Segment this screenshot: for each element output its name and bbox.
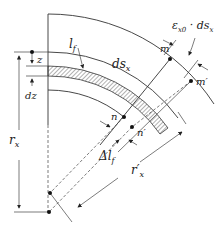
rx-prime-dimension-a [140, 132, 182, 162]
label-m: m [160, 43, 169, 54]
curved-beam-diagram: lf dsx εx0 · dsx m m′ n n′ z dz rx r′x Δ… [0, 0, 220, 229]
label-lf: lf [69, 37, 78, 53]
dashed-radius-to-lower-center [49, 127, 132, 212]
rx-prime-dimension-b [78, 178, 118, 207]
point-m [168, 57, 172, 61]
label-rx: rx [9, 133, 20, 149]
n-arrow [100, 121, 110, 127]
label-n-prime: n′ [137, 127, 146, 138]
mp-offset-arrow [198, 64, 208, 70]
lower-center [47, 210, 51, 214]
label-n: n [111, 111, 117, 122]
lf-pointer [78, 48, 83, 68]
label-z: z [36, 54, 43, 65]
label-delta-lf: Δlf [98, 149, 117, 165]
np-arrow [129, 140, 137, 145]
label-dz: dz [25, 90, 37, 101]
delta-lf-arrow [112, 140, 119, 146]
label-rx-prime: r′x [131, 163, 144, 179]
point-n [122, 115, 126, 119]
rx-prime-tick [178, 112, 186, 124]
label-dsx: dsx [112, 57, 131, 73]
point-m-prime [189, 79, 193, 83]
label-strain: εx0 · dsx [172, 19, 214, 34]
point-n-prime [130, 125, 134, 129]
upper-center [48, 191, 52, 195]
fibre-layer-hatched [48, 66, 168, 134]
label-m-prime: m′ [196, 76, 208, 87]
strain-pointer [189, 38, 195, 55]
point-z-ref [30, 50, 34, 54]
